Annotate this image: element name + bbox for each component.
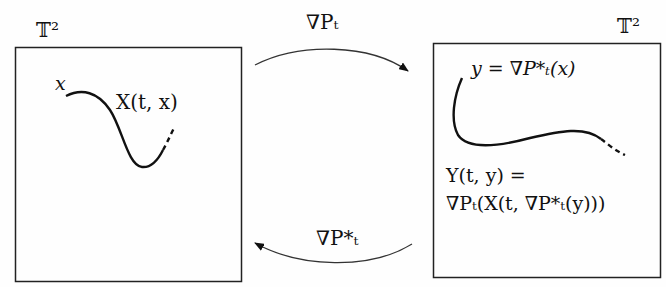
top-arrow bbox=[255, 49, 408, 71]
top-arrow-label: ∇Pₜ bbox=[306, 12, 338, 32]
left-curve-label: X(t, x) bbox=[116, 92, 178, 112]
right-trajectory-dashed bbox=[601, 139, 625, 155]
left-trajectory-dashed bbox=[163, 128, 174, 150]
left-space-label: 𝕋² bbox=[36, 20, 59, 40]
right-trajectory-curve bbox=[454, 78, 601, 145]
right-space-label: 𝕋² bbox=[617, 16, 640, 36]
right-start-label: y = ∇P*ₜ(x) bbox=[471, 59, 576, 78]
bottom-arrow-label: ∇P*ₜ bbox=[316, 228, 358, 248]
right-curve-label-line2: ∇Pₜ(X(t, ∇P*ₜ(y))) bbox=[446, 194, 605, 213]
right-curve-label-line1: Y(t, y) = bbox=[446, 166, 526, 185]
left-torus-box bbox=[16, 48, 242, 282]
left-start-label: x bbox=[55, 74, 66, 93]
